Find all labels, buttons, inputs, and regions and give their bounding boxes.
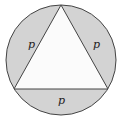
- segment-label-right: p: [93, 38, 100, 51]
- segment-label-left: p: [28, 38, 35, 51]
- inscribed-triangle-diagram: p p p: [0, 0, 119, 120]
- segment-label-bottom: p: [58, 94, 65, 107]
